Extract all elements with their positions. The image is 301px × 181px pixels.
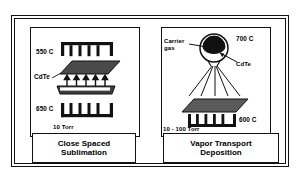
caption-line-2: Deposition: [200, 148, 241, 157]
caption-line-2: Sublimation: [61, 148, 107, 157]
label-bottom-temperature: 650 C: [36, 105, 54, 112]
label-pressure: 10 Torr: [53, 124, 74, 130]
panel-close-spaced-sublimation: 550 C CdTe 650 C 10 Torr: [30, 27, 140, 137]
panel-vapor-transport-deposition: Carrier gas 700 C CdTe 600 C 10 - 100 To…: [161, 27, 271, 137]
label-material-cdte: CdTe: [34, 73, 50, 80]
label-source-temperature: 700 C: [236, 35, 254, 42]
label-top-temperature: 550 C: [36, 48, 54, 55]
caption-vapor-transport-deposition: Vapor Transport Deposition: [163, 133, 279, 163]
label-pressure: 10 - 100 Torr: [163, 126, 200, 132]
source-boat: [57, 86, 115, 94]
label-carrier-gas-line-1: Carrier: [164, 38, 184, 44]
figure-root: 550 C CdTe 650 C 10 Torr Close Spaced Su…: [0, 0, 301, 181]
top-heater-coil: [61, 42, 113, 56]
label-material-cdte: CdTe: [236, 61, 251, 67]
caption-line-1: Close Spaced: [58, 139, 110, 148]
label-substrate-temperature: 600 C: [239, 116, 257, 123]
substrate-plate: [182, 99, 248, 112]
caption-close-spaced-sublimation: Close Spaced Sublimation: [32, 133, 136, 163]
close-spaced-sublimation-artwork: [31, 28, 139, 136]
caption-line-1: Vapor Transport: [190, 139, 251, 148]
vapor-arrows: [64, 75, 107, 86]
label-carrier-gas-line-2: gas: [164, 45, 175, 51]
substrate-plate: [60, 61, 120, 74]
bottom-heater-coil: [61, 103, 113, 117]
cdte-leader-line: [52, 73, 61, 78]
vapor-spray-lines: [189, 66, 240, 96]
molten-source-blob: [203, 36, 225, 54]
